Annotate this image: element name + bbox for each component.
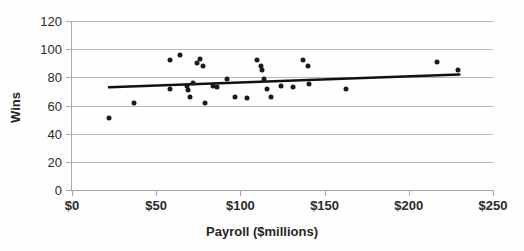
data-point — [214, 85, 219, 90]
y-axis-title-label: Wins — [8, 92, 23, 123]
data-point — [245, 96, 250, 101]
data-point — [201, 64, 206, 69]
x-axis-tick-label: $100 — [226, 198, 255, 213]
trendline-segment — [109, 75, 459, 88]
y-axis-tick-label: 0 — [55, 183, 62, 198]
data-point — [187, 95, 192, 100]
x-axis-tick — [409, 191, 410, 196]
data-point — [265, 86, 270, 91]
x-axis-title: Payroll ($millions) — [0, 224, 524, 239]
data-point — [167, 58, 172, 63]
data-point — [278, 83, 283, 88]
data-point — [197, 57, 202, 62]
plot-area — [72, 21, 493, 190]
data-point — [260, 68, 265, 73]
data-point — [344, 86, 349, 91]
data-point — [177, 52, 182, 57]
scatter-chart: Wins 020406080100120 $0$50$100$150$200$2… — [0, 0, 524, 251]
y-axis-tick-label: 120 — [40, 14, 62, 29]
x-axis-tick — [240, 191, 241, 196]
data-point — [305, 64, 310, 69]
x-axis-tick-label: $150 — [310, 198, 339, 213]
data-point — [455, 68, 460, 73]
data-point — [435, 59, 440, 64]
x-axis-line — [71, 190, 494, 191]
x-axis-tick — [156, 191, 157, 196]
data-point — [132, 100, 137, 105]
y-axis-title: Wins — [4, 52, 26, 162]
data-point — [107, 116, 112, 121]
x-axis-tick — [72, 191, 73, 196]
data-point — [224, 76, 229, 81]
x-axis-tick-label: $50 — [145, 198, 167, 213]
data-point — [233, 95, 238, 100]
data-point — [255, 58, 260, 63]
data-point — [268, 95, 273, 100]
data-point — [191, 80, 196, 85]
trendline — [72, 21, 493, 190]
x-axis-tick-label: $250 — [479, 198, 508, 213]
data-point — [261, 76, 266, 81]
data-point — [300, 58, 305, 63]
data-point — [290, 85, 295, 90]
y-axis-tick-label: 20 — [48, 154, 62, 169]
x-axis-tick-label: $0 — [65, 198, 79, 213]
x-axis-tick — [325, 191, 326, 196]
y-axis-tick-label: 60 — [48, 98, 62, 113]
data-point — [194, 61, 199, 66]
x-axis-tick-label: $200 — [394, 198, 423, 213]
data-point — [307, 82, 312, 87]
y-axis-tick-label: 40 — [48, 126, 62, 141]
data-point — [167, 86, 172, 91]
y-axis-tick-label: 80 — [48, 70, 62, 85]
y-axis-tick-label: 100 — [40, 42, 62, 57]
data-point — [203, 100, 208, 105]
x-axis-tick — [493, 191, 494, 196]
data-point — [186, 88, 191, 93]
